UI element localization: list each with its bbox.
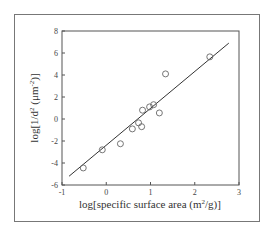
y-tick-label: -6 [51,181,58,190]
x-axis-ticks: -10123 [59,182,241,197]
x-axis-label: log[specific surface area (m2/g)] [79,198,221,211]
x-tick-label: 3 [237,188,241,197]
y-tick-label: 8 [54,27,58,36]
y-axis-label: log[1/d2 (μm-2)] [28,73,41,142]
x-tick-label: 0 [104,188,108,197]
y-axis-ticks: 86420-2-4-6 [51,27,65,190]
x-tick-label: 1 [149,188,153,197]
y-tick-label: 2 [54,93,58,102]
y-tick-label: -4 [51,159,58,168]
y-tick-label: 6 [54,49,58,58]
data-point [140,107,146,113]
y-tick-label: 4 [54,71,58,80]
data-point [129,126,135,132]
data-points [80,54,213,171]
data-point [163,71,169,77]
data-point [156,110,162,116]
y-tick-label: -2 [51,137,58,146]
scatter-chart: -10123 86420-2-4-6 log[specific surface … [0,0,273,233]
data-point [136,120,142,126]
y-tick-label: 0 [54,115,58,124]
data-point [80,165,86,171]
x-tick-label: -1 [59,188,66,197]
data-point [117,141,123,147]
data-point [139,124,145,130]
x-tick-label: 2 [193,188,197,197]
